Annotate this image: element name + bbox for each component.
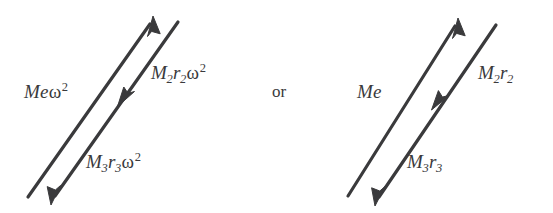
vector-arrows-layer [0,0,553,213]
label-left-primary-force: Meω2 [24,82,68,101]
right-component-end-arrowhead-icon [372,187,385,207]
label-left-lower-force: M3r3ω2 [86,152,141,171]
label-right-lower-m: M [407,151,423,172]
left-component-end-arrowhead-icon [47,186,60,206]
label-left-upper-force: M2r2ω2 [151,63,206,82]
left-diagram-vectors [28,16,178,205]
label-left-primary-exponent: 2 [62,80,68,94]
label-left-upper-m: M [151,62,167,83]
label-right-primary-base: Me [357,81,382,102]
label-right-upper-force: M2r2 [478,63,514,82]
label-left-lower-symbol: ω [122,151,135,172]
left-component-mid-arrowhead-icon [118,87,135,107]
label-left-lower-exponent: 2 [135,150,141,164]
label-left-primary-base: Me [24,81,49,102]
vector-diagram-figure: Meω2 M2r2ω2 M3r3ω2 or Me M2r2 M3r3 [0,0,553,213]
label-right-upper-m: M [478,62,494,83]
label-right-primary-force: Me [357,82,382,101]
label-right-lower-r-subscript: 3 [436,161,442,175]
label-left-primary-symbol: ω [49,81,62,102]
right-diagram-vectors [348,18,496,206]
label-right-lower-force: M3r3 [407,152,443,171]
label-left-upper-symbol: ω [187,62,200,83]
label-left-upper-exponent: 2 [200,61,206,75]
label-left-lower-m: M [86,151,102,172]
conjunction-or-text: or [272,83,286,100]
label-right-upper-r-subscript: 2 [507,72,513,86]
